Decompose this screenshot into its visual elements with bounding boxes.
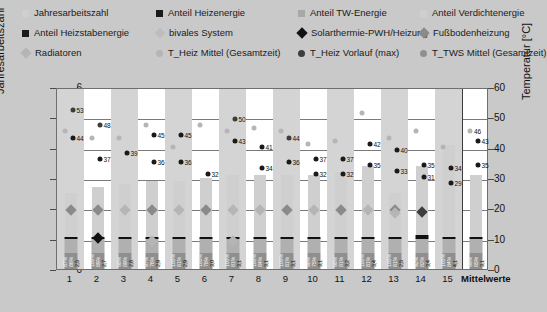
marker-temperature-dot[interactable] — [90, 135, 95, 140]
legend-label: Anteil Heizstabenergie — [34, 28, 129, 38]
legend-label: Anteil TW-Energie — [310, 8, 387, 18]
chart-column[interactable]: 100%89%2,74837 — [84, 89, 111, 269]
legend-jahresarbeitszahl[interactable]: Jahresarbeitszahl — [22, 8, 108, 18]
x-axis-label: 6 — [191, 274, 218, 284]
marker-temperature-dot[interactable] — [441, 144, 446, 149]
marker-temperature-dot[interactable] — [151, 132, 156, 137]
y-tick-right: 20 — [494, 204, 524, 214]
marker-temperature-dot[interactable] — [306, 141, 311, 146]
x-axis-label: 11 — [326, 274, 353, 284]
marker-temperature-dot[interactable] — [198, 123, 203, 128]
chart-column[interactable]: 100%81%3,15043 — [219, 89, 246, 269]
marker-temperature-dot[interactable] — [313, 171, 318, 176]
marker-temperature-dot[interactable] — [421, 174, 426, 179]
label-heizenergie-pct: 100% — [224, 221, 230, 267]
marker-temperature-dot[interactable] — [475, 162, 480, 167]
legend-solarthermie[interactable]: Solarthermie-PWH/Heizung — [298, 28, 428, 38]
chart-column[interactable]: 100%81%3,44235 — [354, 89, 381, 269]
marker-temperature-dot[interactable] — [448, 165, 453, 170]
legend-anteil-heizenergie[interactable]: Anteil Heizenergie — [156, 8, 245, 18]
marker-temperature-dot[interactable] — [178, 132, 183, 137]
marker-temperature-dot[interactable] — [124, 150, 129, 155]
marker-temperature-dot[interactable] — [144, 123, 149, 128]
marker-temperature-dot[interactable] — [279, 129, 284, 134]
legend-label: Fußbodenheizung — [433, 28, 510, 38]
marker-temperature-dot[interactable] — [360, 111, 365, 116]
legend-anteil-heizstabenergie[interactable]: Anteil Heizstabenergie — [22, 28, 129, 38]
marker-temperature-dot[interactable] — [367, 141, 372, 146]
marker-temperature-dot[interactable] — [448, 181, 453, 186]
marker-temperature-dot[interactable] — [394, 168, 399, 173]
marker-temperature-dot[interactable] — [468, 129, 473, 134]
marker-temperature-dot[interactable] — [414, 129, 419, 134]
legend-t-heiz-mittel[interactable]: T_Heiz Mittel (Gesamtzeit) — [156, 48, 280, 58]
marker-temperature-dot[interactable] — [205, 171, 210, 176]
chart-column[interactable]: 100%81%3,14436 — [273, 89, 300, 269]
chart-column[interactable]: 100%78%3,032 — [192, 89, 219, 269]
dot-value-label: 36 — [292, 158, 299, 165]
marker-temperature-dot[interactable] — [286, 135, 291, 140]
label-jahresarbeitszahl: 3,1 — [317, 221, 323, 267]
marker-temperature-dot[interactable] — [475, 138, 480, 143]
plot-canvas: 87%86%2,55344100%89%2,7483798%89%2,83997… — [56, 88, 488, 270]
dot-value-label: 45 — [184, 131, 191, 138]
bar-value-labels: 99%85%3,1 — [464, 221, 488, 267]
legend-label: Jahresarbeitszahl — [34, 8, 108, 18]
legend-anteil-tw-energie[interactable]: Anteil TW-Energie — [298, 8, 387, 18]
marker-temperature-dot[interactable] — [70, 135, 75, 140]
marker-temperature-dot[interactable] — [232, 138, 237, 143]
marker-temperature-dot[interactable] — [333, 138, 338, 143]
y-tickmark-right — [488, 270, 494, 271]
label-heizenergie-pct: 100% — [440, 221, 446, 267]
marker-temperature-dot[interactable] — [70, 108, 75, 113]
marker-temperature-dot[interactable] — [252, 126, 257, 131]
marker-temperature-dot[interactable] — [63, 129, 68, 134]
marker-temperature-dot[interactable] — [117, 135, 122, 140]
marker-temperature-dot[interactable] — [259, 144, 264, 149]
chart-column[interactable]: 100%84%3,14134 — [246, 89, 273, 269]
marker-temperature-dot[interactable] — [286, 159, 291, 164]
chart-column[interactable]: 98%89%2,839 — [111, 89, 138, 269]
diamond-marker-icon — [418, 27, 429, 38]
legend-radiatoren[interactable]: Radiatoren — [22, 48, 81, 58]
x-axis-label: 1 — [56, 274, 83, 284]
label-heizenergie-pct: 100% — [251, 221, 257, 267]
chart-column[interactable]: 98%81%3,23732 — [327, 89, 354, 269]
x-axis-label: 10 — [299, 274, 326, 284]
label-tw-pct: 84% — [446, 221, 452, 267]
chart-column[interactable]: 100%81%2,54033 — [381, 89, 408, 269]
marker-temperature-dot[interactable] — [387, 135, 392, 140]
marker-temperature-dot[interactable] — [178, 159, 183, 164]
bar-value-labels: 100%81%2,5 — [383, 221, 407, 267]
marker-temperature-dot[interactable] — [97, 156, 102, 161]
marker-temperature-dot[interactable] — [394, 147, 399, 152]
label-heizenergie-pct: 98% — [116, 221, 122, 267]
marker-temperature-dot[interactable] — [151, 159, 156, 164]
chart-column[interactable]: 100%81%2,94536 — [165, 89, 192, 269]
legend-anteil-verdichtenergie[interactable]: Anteil Verdichtenergie — [420, 8, 524, 18]
label-jahresarbeitszahl: 2,5 — [398, 221, 404, 267]
marker-temperature-dot[interactable] — [313, 156, 318, 161]
x-axis-label: 14 — [407, 274, 434, 284]
marker-temperature-dot[interactable] — [225, 129, 230, 134]
chart-column[interactable]: 87%86%2,55344 — [57, 89, 84, 269]
legend-t-heiz-vorlauf-max[interactable]: T_Heiz Vorlauf (max) — [298, 48, 399, 58]
marker-temperature-dot[interactable] — [340, 171, 345, 176]
chart-column[interactable]: 100%84%4,13429 — [435, 89, 462, 269]
marker-temperature-dot[interactable] — [171, 144, 176, 149]
chart-column[interactable]: 98%75%3,13732 — [300, 89, 327, 269]
legend-fussbodenheizung[interactable]: Fußbodenheizung — [420, 28, 510, 38]
chart-column[interactable]: 99%85%3,1464335 — [462, 89, 489, 269]
marker-temperature-dot[interactable] — [259, 165, 264, 170]
chart-column[interactable]: 92%82%3,43531 — [408, 89, 435, 269]
marker-temperature-dot[interactable] — [421, 162, 426, 167]
circle-marker-icon — [420, 50, 427, 57]
chart-column[interactable]: 97%76%2,94536 — [138, 89, 165, 269]
y-tick-right: 30 — [494, 174, 524, 184]
dot-value-label: 45 — [157, 131, 164, 138]
marker-temperature-dot[interactable] — [367, 162, 372, 167]
marker-temperature-dot[interactable] — [232, 117, 237, 122]
marker-temperature-dot[interactable] — [97, 123, 102, 128]
marker-temperature-dot[interactable] — [340, 156, 345, 161]
legend-bivales-system[interactable]: bivales System — [156, 28, 233, 38]
